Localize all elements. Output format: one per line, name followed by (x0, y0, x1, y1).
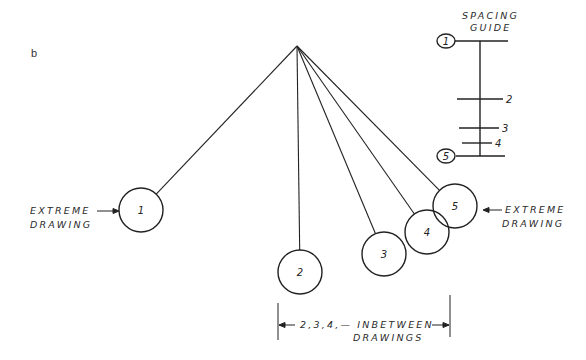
pendulum-diagram: 12345 12345 (0, 0, 586, 360)
ball-number-5: 5 (452, 201, 458, 212)
spacing-label-5: 5 (443, 151, 449, 162)
spacing-label-2: 2 (506, 94, 512, 105)
ball-number-1: 1 (138, 205, 144, 216)
left-extreme-label-2: DRAWING (30, 219, 92, 231)
pendulum-string-5 (297, 46, 440, 190)
inbetween-label-1: 2,3,4,— INBETWEEN (300, 319, 434, 331)
spacing-label-4: 4 (495, 138, 501, 149)
pendulum-string-1 (156, 46, 297, 194)
spacing-label-1: 1 (443, 36, 449, 47)
ball-number-2: 2 (297, 267, 303, 278)
right-extreme-label-2: DRAWING (502, 218, 564, 230)
ball-number-4: 4 (424, 227, 430, 238)
left-extreme-arrow (97, 209, 119, 214)
pendulum-string-3 (297, 46, 376, 234)
pendulum-string-4 (297, 46, 414, 214)
pendulum-balls: 12345 (119, 184, 477, 294)
spacing-guide-title-2: GUIDE (470, 22, 511, 34)
spacing-label-3: 3 (502, 123, 508, 134)
pendulum-strings (156, 46, 439, 250)
spacing-guide: 12345 (437, 34, 512, 163)
spacing-guide-title-1: SPACING (462, 10, 519, 22)
ball-number-3: 3 (381, 249, 387, 260)
pendulum-string-2 (297, 46, 300, 250)
right-extreme-label-1: EXTREME (505, 204, 566, 216)
inbetween-label-2: DRAWINGS (353, 332, 424, 344)
right-extreme-arrow (483, 208, 502, 213)
left-extreme-label-1: EXTREME (30, 205, 91, 217)
